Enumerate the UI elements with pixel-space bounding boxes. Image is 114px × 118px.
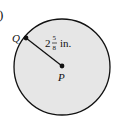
part-marker: ): [0, 7, 3, 22]
radius-numerator: 5: [53, 34, 57, 42]
radius-unit: in.: [60, 37, 72, 49]
point-q-label: Q: [12, 32, 20, 44]
point-q-dot: [24, 36, 29, 41]
point-p-label: P: [57, 71, 65, 83]
diagram-svg: ) Q P 2 5 8 in.: [0, 0, 114, 118]
radius-denominator: 8: [53, 44, 57, 52]
circle-diagram: ) Q P 2 5 8 in.: [0, 0, 114, 118]
radius-whole: 2: [45, 37, 51, 49]
point-p-dot: [60, 64, 65, 69]
